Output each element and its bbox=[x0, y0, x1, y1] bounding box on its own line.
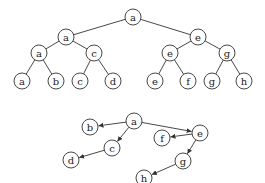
tree-node-b: b bbox=[48, 73, 64, 89]
node-label: a bbox=[19, 76, 25, 87]
tree-node-e: e bbox=[162, 45, 178, 61]
node-label: d bbox=[110, 76, 117, 87]
node-label: e bbox=[197, 128, 203, 139]
node-label: a bbox=[131, 116, 137, 127]
graph-arrow-g-h bbox=[152, 164, 176, 174]
node-label: e bbox=[167, 48, 173, 59]
node-label: g bbox=[209, 76, 216, 87]
tree-edge-c-c bbox=[84, 60, 91, 74]
tree-edge-c-d bbox=[98, 60, 108, 75]
tree-and-graph-diagram: aaeacegabcdefgh abcdefgh bbox=[0, 0, 265, 183]
tree-edge-a-c bbox=[73, 41, 87, 49]
graph-arrow-a-e bbox=[142, 122, 192, 131]
tree-node-e: e bbox=[190, 29, 206, 45]
graph-node-a: a bbox=[126, 113, 142, 129]
tree-node-a: a bbox=[58, 29, 74, 45]
node-label: e bbox=[152, 76, 158, 87]
tree-edge-e-g bbox=[205, 41, 220, 49]
graph-node-b: b bbox=[82, 119, 98, 135]
tree-node-f: f bbox=[180, 73, 196, 89]
tree-node-a: a bbox=[31, 45, 47, 61]
node-label: c bbox=[109, 143, 115, 154]
node-label: h bbox=[141, 173, 148, 183]
tree-edges bbox=[26, 19, 240, 74]
graph-arrow-a-b bbox=[98, 122, 126, 126]
node-label: g bbox=[180, 156, 187, 167]
node-label: e bbox=[195, 32, 201, 43]
graph-node-e: e bbox=[192, 125, 208, 141]
tree-node-e: e bbox=[147, 73, 163, 89]
tree-edge-a-a bbox=[46, 41, 59, 49]
tree-node-d: d bbox=[105, 73, 121, 89]
tree-node-g: g bbox=[219, 45, 235, 61]
tree-node-a: a bbox=[125, 9, 141, 25]
tree-node-c: c bbox=[86, 45, 102, 61]
node-label: c bbox=[77, 76, 83, 87]
node-label: b bbox=[87, 122, 93, 133]
tree-edge-a-b bbox=[43, 60, 52, 74]
node-label: d bbox=[68, 155, 75, 166]
graph-arrow-e-g bbox=[187, 140, 195, 154]
tree-edge-a-e bbox=[141, 19, 191, 34]
graph-arrow-a-c bbox=[117, 127, 129, 141]
node-label: a bbox=[130, 12, 136, 23]
graph-nodes: abcdefgh bbox=[63, 113, 208, 183]
tree-edge-a-a bbox=[74, 19, 126, 34]
tree-nodes: aaeacegabcdefgh bbox=[14, 9, 252, 89]
tree-edge-g-h bbox=[231, 60, 240, 74]
tree-node-g: g bbox=[204, 73, 220, 89]
node-label: b bbox=[53, 76, 59, 87]
graph-arrow-c-d bbox=[79, 150, 104, 157]
graph-arrow-e-f bbox=[170, 134, 192, 137]
tree-edge-e-e bbox=[159, 60, 166, 74]
tree-node-c: c bbox=[72, 73, 88, 89]
graph-node-g: g bbox=[175, 153, 191, 169]
graph-node-h: h bbox=[136, 170, 152, 183]
tree-edge-g-g bbox=[216, 60, 223, 74]
tree-edge-a-a bbox=[26, 60, 35, 74]
graph-node-d: d bbox=[63, 152, 79, 168]
tree-edge-e-e bbox=[177, 41, 191, 49]
node-label: g bbox=[224, 48, 231, 59]
tree-node-a: a bbox=[14, 73, 30, 89]
node-label: c bbox=[91, 48, 97, 59]
graph-node-c: c bbox=[104, 140, 120, 156]
tree-edge-e-f bbox=[174, 60, 183, 75]
node-label: a bbox=[36, 48, 42, 59]
node-label: h bbox=[241, 76, 248, 87]
tree-node-h: h bbox=[236, 73, 252, 89]
graph-node-f: f bbox=[154, 130, 170, 146]
node-label: a bbox=[63, 32, 69, 43]
